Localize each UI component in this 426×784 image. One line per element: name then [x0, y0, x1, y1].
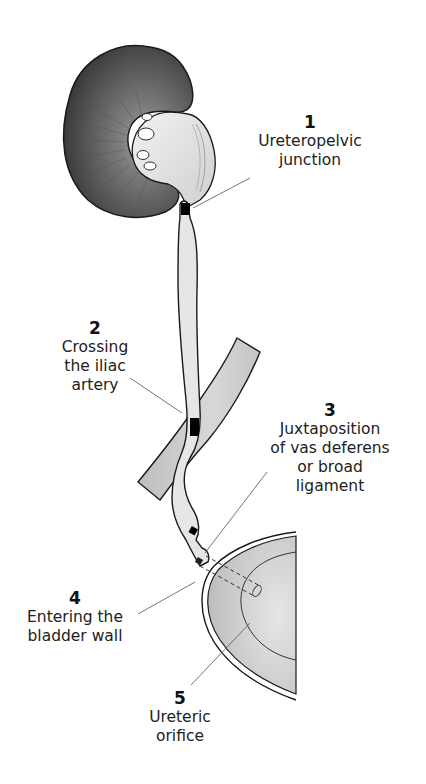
label-5-text: Ureteric orifice [130, 708, 230, 746]
constriction-2-marker [190, 418, 199, 436]
bladder [195, 532, 296, 700]
constriction-1-marker [181, 203, 190, 215]
label-entering-bladder-wall: 4 Entering the bladder wall [10, 588, 140, 646]
label-ureteric-orifice: 5 Ureteric orifice [130, 688, 230, 746]
label-3-number: 3 [255, 400, 405, 420]
label-juxtaposition-vas-deferens: 3 Juxtaposition of vas deferens or broad… [255, 400, 405, 496]
label-1-text: Ureteropelvic junction [250, 132, 370, 170]
ureter [172, 201, 209, 566]
label-1-number: 1 [250, 112, 370, 132]
leader-line-4 [138, 582, 195, 614]
label-ureteropelvic-junction: 1 Ureteropelvic junction [250, 112, 370, 170]
label-5-number: 5 [130, 688, 230, 708]
label-4-text: Entering the bladder wall [10, 608, 140, 646]
label-2-number: 2 [40, 318, 150, 338]
label-crossing-iliac-artery: 2 Crossing the iliac artery [40, 318, 150, 395]
label-2-text: Crossing the iliac artery [40, 338, 150, 395]
label-3-text: Juxtaposition of vas deferens or broad l… [255, 420, 405, 496]
label-4-number: 4 [10, 588, 140, 608]
